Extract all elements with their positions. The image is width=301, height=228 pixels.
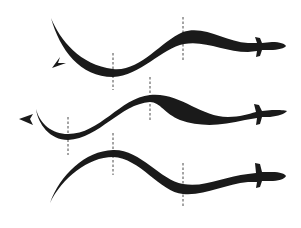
eel-body	[36, 95, 287, 140]
eel-body	[50, 150, 286, 203]
eel-stage-1	[51, 17, 286, 90]
eel-stage-2	[19, 77, 287, 155]
arrowhead-icon	[19, 114, 33, 125]
diagram-svg	[0, 0, 301, 228]
eel-body	[51, 18, 286, 77]
eel-swimming-diagram: Three successive stages of anguilliform …	[0, 0, 301, 228]
eel-stage-3	[50, 133, 286, 207]
arrowhead-icon	[52, 57, 66, 68]
